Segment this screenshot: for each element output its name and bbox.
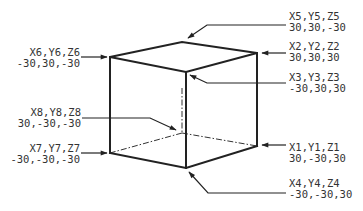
vertex-label-v1: X1,Y1,Z1 30,-30,30 — [289, 141, 346, 164]
top-face — [110, 42, 257, 72]
hidden-edge-v8-v7 — [110, 133, 182, 153]
vertex-coords: 30,30,-30 — [289, 21, 346, 33]
vertex-label-v7: X7,Y7,Z7 -30,-30,-30 — [10, 142, 80, 165]
vertex-coords: -30,30,30 — [289, 82, 346, 94]
vertex-coords: -30,-30,-30 — [10, 153, 80, 165]
vertex-label-v4: X4,Y4,Z4 -30,-30,30 — [289, 177, 352, 200]
leader-v3 — [190, 75, 286, 83]
leader-v5 — [188, 25, 286, 38]
hidden-edge-v8-v1 — [182, 133, 257, 146]
leader-v4 — [189, 172, 286, 193]
hidden-edges — [110, 88, 257, 153]
vertex-label-v8: X8,Y8,Z8 30,-30,-30 — [18, 106, 81, 129]
cube-diagram: X5,Y5,Z5 30,30,-30 X2,Y2,Z2 30,30,30 X3,… — [0, 0, 363, 211]
vertex-label-v6: X6,Y6,Z6 -30,30,-30 — [17, 46, 80, 69]
leader-v8 — [82, 118, 176, 130]
visible-edges — [110, 42, 257, 168]
vertex-coords: 30,-30,30 — [289, 152, 346, 164]
vertex-coords: -30,30,-30 — [17, 57, 80, 69]
vertex-coords: 30,30,30 — [289, 51, 340, 63]
vertex-label-v5: X5,Y5,Z5 30,30,-30 — [289, 10, 346, 33]
cube-diagram-canvas: X5,Y5,Z5 30,30,-30 X2,Y2,Z2 30,30,30 X3,… — [0, 0, 363, 211]
vertex-label-v2: X2,Y2,Z2 30,30,30 — [289, 40, 340, 63]
bottom-edges — [110, 146, 257, 168]
vertex-coords: 30,-30,-30 — [18, 117, 81, 129]
vertex-coords: -30,-30,30 — [289, 188, 352, 200]
vertex-label-v3: X3,Y3,Z3 -30,30,30 — [289, 71, 346, 94]
